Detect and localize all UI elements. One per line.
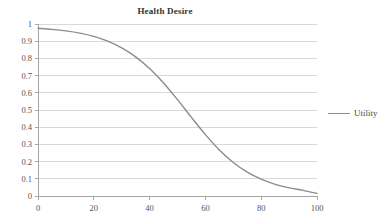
x-tick-label-3: 60 [188, 204, 222, 213]
chart-container: Health Desire 00.10.20.30.40.50.60.70.80… [0, 0, 391, 224]
x-tick-label-0: 0 [21, 204, 55, 213]
y-tick-label-7: 0.7 [6, 72, 32, 81]
chart-legend: Utility [328, 108, 378, 118]
y-tick-label-8: 0.8 [6, 54, 32, 63]
legend-line-swatch-utility [328, 113, 350, 114]
gridlines-group [38, 24, 317, 196]
y-tick-label-1: 0.1 [6, 175, 32, 184]
x-tick-label-1: 20 [77, 204, 111, 213]
y-tick-label-5: 0.5 [6, 106, 32, 115]
x-tick-label-2: 40 [133, 204, 167, 213]
y-tick-label-10: 1 [6, 20, 32, 29]
y-tick-label-9: 0.9 [6, 37, 32, 46]
series-line-utility [38, 28, 317, 193]
series-group [38, 28, 317, 193]
y-tick-label-6: 0.6 [6, 89, 32, 98]
y-tick-label-4: 0.4 [6, 123, 32, 132]
y-tick-label-2: 0.2 [6, 158, 32, 167]
y-tick-label-3: 0.3 [6, 140, 32, 149]
x-tick-label-4: 80 [244, 204, 278, 213]
y-tick-label-0: 0 [6, 192, 32, 201]
tick-marks-group [35, 24, 317, 200]
legend-label-utility: Utility [354, 108, 378, 118]
x-tick-label-5: 100 [300, 204, 334, 213]
